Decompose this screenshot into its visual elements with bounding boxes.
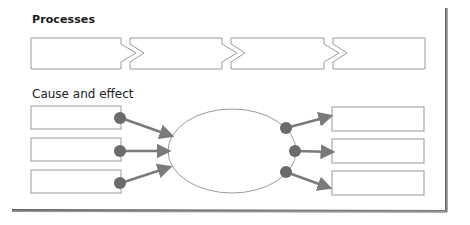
cause-box-1 (31, 106, 121, 129)
cause-arrow-1 (121, 118, 172, 136)
page-shadow-bottom (12, 209, 447, 213)
cause-arrow-3 (121, 167, 170, 183)
process-step-3 (231, 38, 339, 69)
effect-box-1 (332, 107, 424, 131)
effect-node-1 (280, 122, 292, 134)
effect-center-ellipse (168, 109, 296, 193)
process-step-1 (31, 38, 136, 69)
process-step-2 (130, 38, 237, 69)
process-flow (31, 38, 425, 69)
cause-boxes (31, 106, 121, 193)
effect-node-3 (280, 166, 292, 178)
effect-arrow-1 (286, 116, 331, 128)
cause-connectors (121, 118, 172, 183)
process-step-4 (333, 38, 425, 69)
effect-arrow-3 (286, 172, 330, 188)
effect-boxes (332, 107, 424, 195)
cause-box-3 (31, 170, 121, 193)
effect-node-2 (289, 145, 301, 157)
cause-node-3 (114, 177, 126, 189)
effect-box-2 (332, 139, 424, 163)
diagram-page: Processes Cause and effect (0, 0, 470, 225)
effect-box-3 (332, 171, 424, 195)
diagram-canvas (0, 0, 470, 225)
cause-node-2 (114, 145, 126, 157)
cause-box-2 (31, 138, 121, 161)
page-shadow-right (445, 8, 448, 212)
cause-node-1 (114, 112, 126, 124)
